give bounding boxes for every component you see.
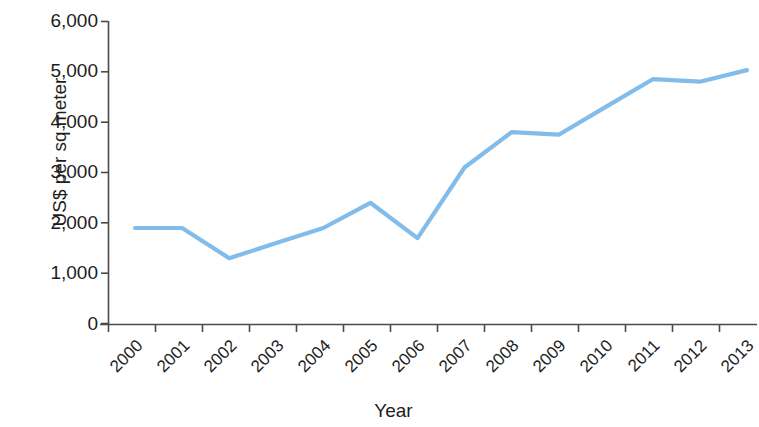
x-axis-title-text: Year <box>374 400 412 422</box>
y-axis-ticks <box>101 22 108 324</box>
line-chart: US$ per sq meter 6,000 5,000 4,000 3,000… <box>0 0 759 427</box>
x-axis-title: Year <box>0 400 759 422</box>
data-series-line <box>135 70 747 258</box>
